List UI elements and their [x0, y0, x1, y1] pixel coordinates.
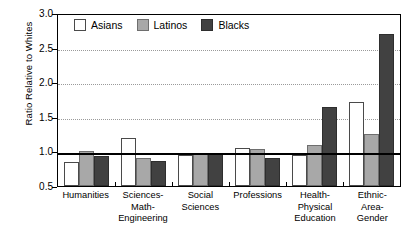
y-tick-label: 3.0 — [13, 9, 53, 19]
bar-asians[interactable] — [292, 155, 307, 186]
reference-line — [58, 153, 400, 155]
x-tick-mark — [172, 182, 173, 186]
x-axis-label: Humanities — [57, 190, 114, 225]
x-tick-mark — [229, 182, 230, 186]
bar-latinos[interactable] — [364, 134, 379, 186]
y-tick-label: 1.5 — [13, 113, 53, 123]
bar-blacks[interactable] — [265, 158, 280, 186]
plot-area — [57, 14, 401, 187]
chart-legend: AsiansLatinosBlacks — [74, 19, 249, 31]
bar-latinos[interactable] — [79, 151, 94, 186]
bar-group — [58, 15, 115, 186]
bar-blacks[interactable] — [379, 34, 394, 186]
y-axis-title: Ratio Relative to Whites — [23, 0, 34, 154]
y-tick-mark — [52, 187, 57, 188]
bar-chart: Ratio Relative to Whites 0.51.01.52.02.5… — [0, 0, 415, 240]
legend-entry[interactable]: Asians — [74, 19, 123, 31]
x-tick-mark — [343, 182, 344, 186]
bar-asians[interactable] — [349, 102, 364, 186]
y-tick-label: 2.0 — [13, 78, 53, 88]
bar-latinos[interactable] — [136, 158, 151, 186]
y-tick-label: 2.5 — [13, 44, 53, 54]
bar-group — [343, 15, 400, 186]
bar-blacks[interactable] — [208, 153, 223, 186]
bar-blacks[interactable] — [94, 156, 109, 186]
y-tick-label: 1.0 — [13, 147, 53, 157]
legend-entry[interactable]: Blacks — [201, 19, 249, 31]
legend-swatch-asians — [74, 19, 86, 31]
x-axis-label: Sciences- Math- Engineering — [114, 190, 171, 225]
x-axis-labels: HumanitiesSciences- Math- EngineeringSoc… — [57, 190, 401, 225]
x-tick-mark — [286, 182, 287, 186]
x-axis-label: Health- Physical Education — [286, 190, 343, 225]
bar-latinos[interactable] — [307, 145, 322, 186]
bar-asians[interactable] — [178, 155, 193, 186]
bar-groups — [58, 15, 400, 186]
y-tick-label: 0.5 — [13, 182, 53, 192]
legend-swatch-blacks — [201, 19, 213, 31]
bar-latinos[interactable] — [193, 153, 208, 186]
bar-group — [286, 15, 343, 186]
bar-asians[interactable] — [64, 162, 79, 186]
legend-swatch-latinos — [137, 19, 149, 31]
bar-group — [229, 15, 286, 186]
x-axis-label: Social Sciences — [172, 190, 229, 225]
bar-blacks[interactable] — [322, 107, 337, 186]
bar-blacks[interactable] — [151, 161, 166, 186]
legend-label: Latinos — [154, 20, 188, 31]
bar-group — [172, 15, 229, 186]
bar-asians[interactable] — [121, 138, 136, 186]
legend-label: Blacks — [218, 20, 249, 31]
bar-group — [115, 15, 172, 186]
x-axis-label: Ethnic- Area- Gender — [344, 190, 401, 225]
legend-label: Asians — [91, 20, 123, 31]
x-tick-mark — [115, 182, 116, 186]
legend-entry[interactable]: Latinos — [137, 19, 188, 31]
x-axis-label: Professions — [229, 190, 286, 225]
